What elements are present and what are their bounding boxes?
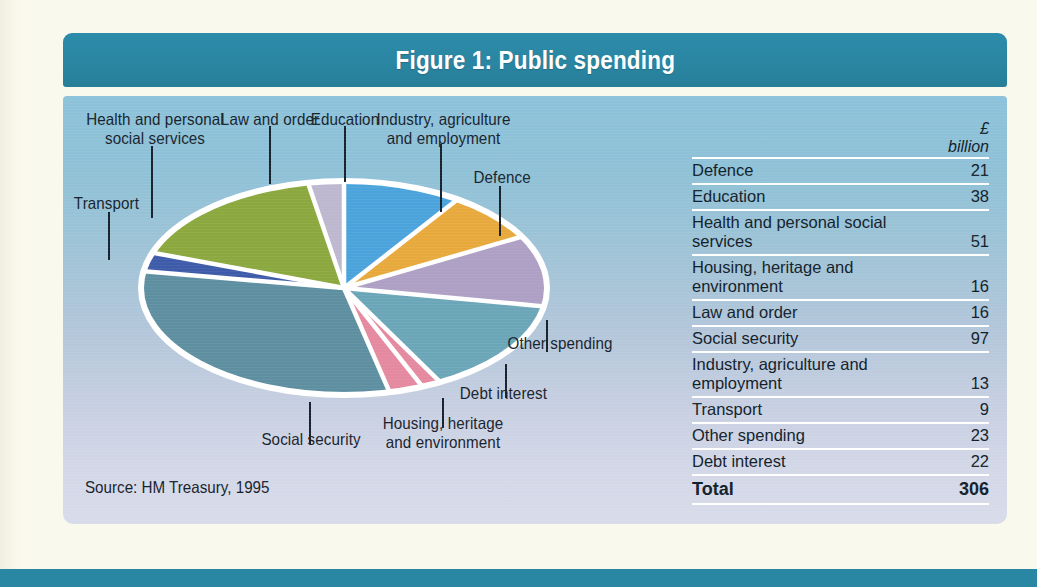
table-total-label: Total bbox=[692, 475, 943, 503]
table-row: Other spending 23 bbox=[692, 423, 989, 449]
figure-header-bar: Figure 1: Public spending bbox=[63, 33, 1007, 87]
table-cell-label: Debt interest bbox=[692, 449, 943, 475]
table-unit-row: £ billion bbox=[692, 118, 989, 158]
table-row: Health and personal social services 51 bbox=[692, 210, 989, 255]
pie-chart-svg bbox=[63, 96, 683, 524]
table-row: Defence 21 bbox=[692, 158, 989, 184]
table-cell-value: 21 bbox=[943, 158, 989, 184]
table-cell-label: Defence bbox=[692, 158, 943, 184]
table-cell-value: 13 bbox=[943, 352, 989, 397]
figure-source: Source: HM Treasury, 1995 bbox=[85, 478, 269, 497]
table-cell-label: Transport bbox=[692, 397, 943, 423]
pie-label-industry: Industry, agriculture and employment bbox=[372, 110, 515, 148]
pie-label-defence: Defence bbox=[473, 168, 530, 187]
table-row: Social security 97 bbox=[692, 326, 989, 352]
pie-label-social-security: Social security bbox=[237, 430, 384, 449]
table-cell-value: 38 bbox=[943, 184, 989, 210]
page-left-edge bbox=[0, 0, 22, 587]
page-bottom-band bbox=[0, 569, 1037, 587]
table-row: Industry, agriculture and employment 13 bbox=[692, 352, 989, 397]
pie-slices bbox=[63, 96, 683, 524]
table-cell-value: 16 bbox=[943, 300, 989, 326]
table-cell-label: Industry, agriculture and employment bbox=[692, 352, 943, 397]
table-row: Law and order 16 bbox=[692, 300, 989, 326]
table-unit-spacer bbox=[692, 118, 943, 158]
spending-table-grid: £ billion Defence 21 Education 38 Health… bbox=[692, 118, 989, 503]
table-unit-header: £ billion bbox=[943, 118, 989, 158]
pie-slice-other-spending bbox=[344, 288, 683, 524]
table-cell-label: Education bbox=[692, 184, 943, 210]
pie-label-transport: Transport bbox=[74, 194, 139, 213]
table-cell-value: 97 bbox=[943, 326, 989, 352]
figure-panel: Health and personal social services Law … bbox=[63, 96, 1007, 524]
table-cell-value: 51 bbox=[943, 210, 989, 255]
table-cell-label: Social security bbox=[692, 326, 943, 352]
table-cell-value: 9 bbox=[943, 397, 989, 423]
table-row: Housing, heritage and environment 16 bbox=[692, 255, 989, 300]
table-row: Transport 9 bbox=[692, 397, 989, 423]
pie-chart: Health and personal social services Law … bbox=[63, 96, 683, 524]
table-cell-value: 22 bbox=[943, 449, 989, 475]
table-cell-value: 23 bbox=[943, 423, 989, 449]
table-row: Debt interest 22 bbox=[692, 449, 989, 475]
spending-table: £ billion Defence 21 Education 38 Health… bbox=[692, 118, 989, 505]
table-cell-label: Other spending bbox=[692, 423, 943, 449]
table-total-value: 306 bbox=[943, 475, 989, 503]
pie-label-debt-interest: Debt interest bbox=[460, 384, 547, 403]
table-total-row: Total 306 bbox=[692, 475, 989, 503]
spending-table-body: £ billion Defence 21 Education 38 Health… bbox=[692, 118, 989, 503]
figure-page: Figure 1: Public spending bbox=[0, 0, 1037, 587]
table-row: Education 38 bbox=[692, 184, 989, 210]
table-total-underline bbox=[692, 503, 989, 505]
figure-title: Figure 1: Public spending bbox=[395, 46, 675, 75]
table-cell-label: Law and order bbox=[692, 300, 943, 326]
table-cell-label: Health and personal social services bbox=[692, 210, 943, 255]
table-cell-value: 16 bbox=[943, 255, 989, 300]
pie-label-other-spending: Other spending bbox=[508, 334, 613, 353]
table-cell-label: Housing, heritage and environment bbox=[692, 255, 943, 300]
pie-label-housing: Housing, heritage and environment bbox=[369, 414, 516, 452]
